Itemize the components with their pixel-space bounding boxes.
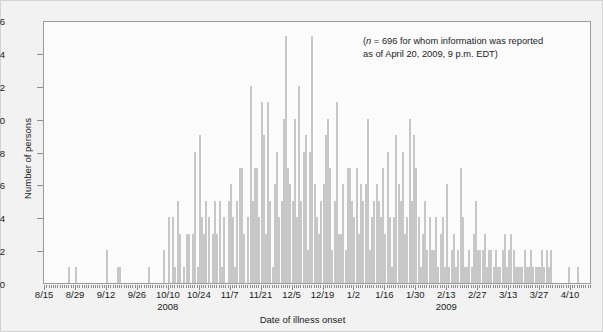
x-tick-mark-minor bbox=[150, 285, 151, 288]
bar bbox=[568, 267, 570, 283]
x-tick-mark-minor bbox=[73, 285, 74, 288]
bar bbox=[68, 267, 70, 283]
x-tick-mark-minor bbox=[510, 285, 511, 288]
x-tick-mark-minor bbox=[360, 285, 361, 288]
x-tick-mark-minor bbox=[68, 285, 69, 288]
x-tick-label: 4/10 bbox=[548, 289, 592, 300]
x-tick-mark-minor bbox=[320, 285, 321, 288]
x-tick-mark-minor bbox=[358, 285, 359, 288]
x-tick-mark-minor bbox=[285, 285, 286, 288]
y-tick-mark bbox=[37, 54, 43, 55]
x-tick-mark-minor bbox=[287, 285, 288, 288]
x-axis-title: Date of illness onset bbox=[1, 314, 603, 325]
x-tick-mark-minor bbox=[203, 285, 204, 288]
y-tick-mark bbox=[37, 153, 43, 154]
x-tick-mark-minor bbox=[400, 285, 401, 288]
x-tick-mark-minor bbox=[265, 285, 266, 288]
bars-layer bbox=[44, 22, 590, 283]
x-tick-mark-minor bbox=[239, 285, 240, 288]
x-tick-mark-minor bbox=[424, 285, 425, 288]
x-tick-mark-minor bbox=[528, 285, 529, 288]
x-tick-mark-minor bbox=[130, 285, 131, 288]
x-tick-mark-minor bbox=[309, 285, 310, 288]
x-tick-mark-minor bbox=[225, 285, 226, 288]
x-tick-mark-minor bbox=[274, 285, 275, 288]
x-tick-mark-minor bbox=[71, 285, 72, 288]
x-tick-mark-minor bbox=[55, 285, 56, 288]
x-tick-mark-minor bbox=[502, 285, 503, 288]
x-tick-mark-minor bbox=[471, 285, 472, 288]
x-tick-mark-minor bbox=[84, 285, 85, 288]
x-tick-mark-minor bbox=[442, 285, 443, 288]
x-tick-mark-minor bbox=[181, 285, 182, 288]
x-tick-mark-minor bbox=[336, 285, 337, 288]
y-axis-title: Number of persons bbox=[22, 89, 33, 229]
x-tick-mark-minor bbox=[362, 285, 363, 288]
x-tick-mark-minor bbox=[466, 285, 467, 288]
y-tick-label: 14 bbox=[0, 48, 5, 59]
x-tick-mark-minor bbox=[102, 285, 103, 288]
x-tick-mark-minor bbox=[468, 285, 469, 288]
bar bbox=[194, 152, 196, 284]
x-tick-mark-minor bbox=[473, 285, 474, 288]
x-tick-mark-minor bbox=[296, 285, 297, 288]
x-tick-mark-minor bbox=[77, 285, 78, 288]
x-tick-mark-minor bbox=[307, 285, 308, 288]
x-tick-mark-minor bbox=[479, 285, 480, 288]
x-tick-mark-minor bbox=[555, 285, 556, 288]
x-tick-mark-minor bbox=[513, 285, 514, 288]
x-tick-mark-minor bbox=[247, 285, 248, 288]
x-tick-mark-minor bbox=[95, 285, 96, 288]
x-tick-mark-minor bbox=[541, 285, 542, 288]
x-tick-mark-minor bbox=[141, 285, 142, 288]
bar bbox=[577, 267, 579, 283]
x-tick-mark-minor bbox=[88, 285, 89, 288]
x-tick-mark-minor bbox=[409, 285, 410, 288]
x-tick-mark-minor bbox=[334, 285, 335, 288]
x-tick-mark-minor bbox=[521, 285, 522, 288]
x-tick-mark-minor bbox=[389, 285, 390, 288]
x-tick-mark-minor bbox=[245, 285, 246, 288]
x-tick-mark-minor bbox=[404, 285, 405, 288]
x-tick-mark-minor bbox=[563, 285, 564, 288]
x-tick-mark-minor bbox=[418, 285, 419, 288]
x-tick-mark-minor bbox=[506, 285, 507, 288]
x-tick-mark-minor bbox=[311, 285, 312, 288]
x-axis-year-label: 2009 bbox=[406, 301, 486, 312]
x-tick-mark-minor bbox=[276, 285, 277, 288]
x-tick-mark-minor bbox=[177, 285, 178, 288]
x-tick-mark-minor bbox=[314, 285, 315, 288]
y-tick-label: 16 bbox=[0, 16, 5, 27]
x-tick-mark-minor bbox=[188, 285, 189, 288]
x-tick-mark-minor bbox=[232, 285, 233, 288]
bar bbox=[243, 234, 245, 283]
x-tick-mark-minor bbox=[451, 285, 452, 288]
x-tick-mark-minor bbox=[455, 285, 456, 288]
x-tick-mark-minor bbox=[124, 285, 125, 288]
y-tick-label: 6 bbox=[0, 180, 5, 191]
bar bbox=[148, 267, 150, 283]
x-tick-mark-minor bbox=[349, 285, 350, 288]
x-tick-mark-minor bbox=[373, 285, 374, 288]
x-tick-mark-minor bbox=[369, 285, 370, 288]
x-tick-mark-minor bbox=[440, 285, 441, 288]
x-tick-mark-minor bbox=[155, 285, 156, 288]
x-tick-mark-minor bbox=[411, 285, 412, 288]
x-tick-mark-minor bbox=[254, 285, 255, 288]
bar bbox=[223, 217, 225, 283]
x-tick-mark-minor bbox=[420, 285, 421, 288]
annotation-line-1: (n = 696 for whom information was report… bbox=[363, 35, 591, 48]
y-tick-label: 8 bbox=[0, 147, 5, 158]
x-tick-mark-minor bbox=[561, 285, 562, 288]
x-tick-mark-minor bbox=[305, 285, 306, 288]
x-tick-mark-minor bbox=[429, 285, 430, 288]
y-tick-label: 4 bbox=[0, 213, 5, 224]
x-tick-mark-minor bbox=[234, 285, 235, 288]
x-tick-mark-minor bbox=[490, 285, 491, 288]
x-tick-mark-minor bbox=[460, 285, 461, 288]
x-tick-mark-minor bbox=[228, 285, 229, 288]
x-tick-mark-minor bbox=[422, 285, 423, 288]
x-tick-mark-minor bbox=[537, 285, 538, 288]
x-tick-mark-minor bbox=[214, 285, 215, 288]
x-tick-mark-minor bbox=[340, 285, 341, 288]
